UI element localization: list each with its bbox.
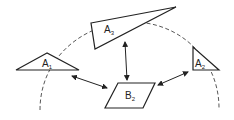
arrow-a1-b2 (72, 76, 107, 88)
shape-a1: A1 (16, 53, 79, 70)
diagram-canvas: A1 A3 A2 B2 (0, 0, 234, 120)
shape-a2: A2 (193, 47, 219, 70)
diagram-svg: A1 A3 A2 B2 (0, 0, 234, 120)
arrow-a2-b2 (158, 72, 188, 85)
shape-b2: B2 (105, 83, 155, 108)
arrow-a3-b2 (125, 42, 127, 80)
shape-a3: A3 (91, 7, 176, 49)
